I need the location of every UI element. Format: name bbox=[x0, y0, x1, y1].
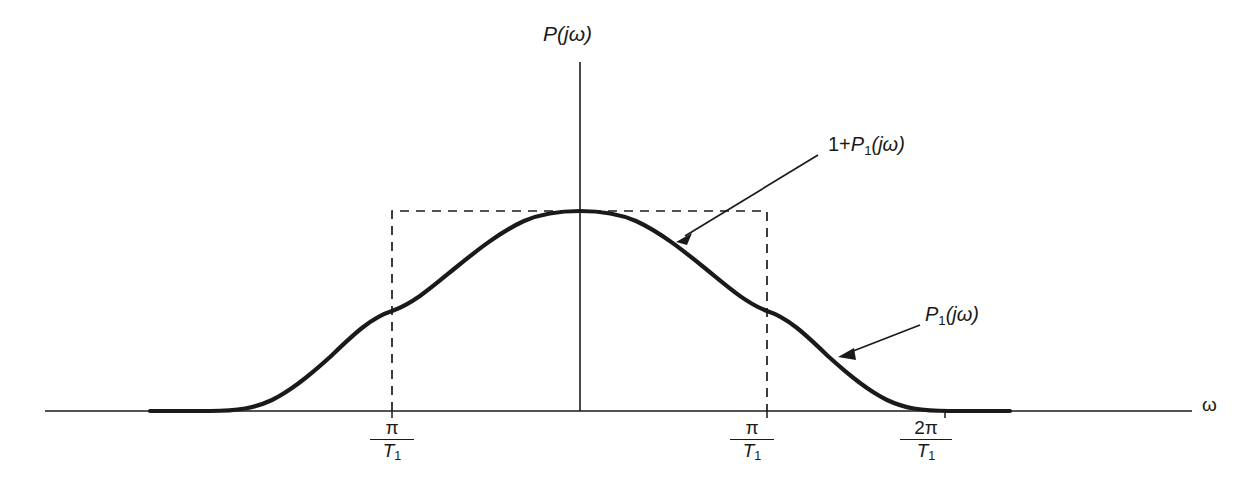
x-tick-label-pi-over-T1-right: π T1 bbox=[730, 418, 774, 463]
y-axis-label: P(jω) bbox=[543, 22, 592, 46]
annotation-p1-symbol: P bbox=[925, 303, 938, 325]
annotation-arrow-one-plus-p1 bbox=[676, 155, 818, 245]
annotation-p1-label: P1(jω) bbox=[925, 303, 979, 328]
x-tick-label-denominator: T1 bbox=[370, 439, 414, 463]
x-tick-label-numerator: π bbox=[730, 418, 774, 439]
annotation-one-plus-p1-argument: (jω) bbox=[872, 133, 905, 155]
annotation-one-plus-p1-subscript: 1 bbox=[864, 143, 871, 158]
x-tick-label-denominator: T1 bbox=[730, 439, 774, 463]
annotation-p1-argument: (jω) bbox=[946, 303, 979, 325]
x-tick-label-numerator: π bbox=[370, 418, 414, 439]
x-axis-label-text: ω bbox=[1202, 394, 1217, 415]
annotation-one-plus-p1-label: 1+P1(jω) bbox=[828, 133, 905, 158]
x-tick-label-two-pi-over-T1: 2π T1 bbox=[900, 418, 952, 463]
annotation-one-plus-p1-prefix: 1+ bbox=[828, 133, 851, 155]
annotation-one-plus-p1-symbol: P bbox=[851, 133, 864, 155]
plot-area bbox=[0, 0, 1234, 484]
annotation-p1-subscript: 1 bbox=[938, 313, 945, 328]
x-axis-label: ω bbox=[1202, 394, 1217, 416]
y-axis-label-text: P(jω) bbox=[543, 22, 592, 45]
figure-canvas: P(jω) ω 1+P1(jω) P1(jω) π T1 π T1 2π T1 bbox=[0, 0, 1234, 484]
x-tick-label-pi-over-T1-left: π T1 bbox=[370, 418, 414, 463]
x-tick-label-numerator: 2π bbox=[900, 418, 952, 439]
annotation-arrow-p1 bbox=[838, 325, 920, 360]
x-tick-label-denominator: T1 bbox=[900, 439, 952, 463]
